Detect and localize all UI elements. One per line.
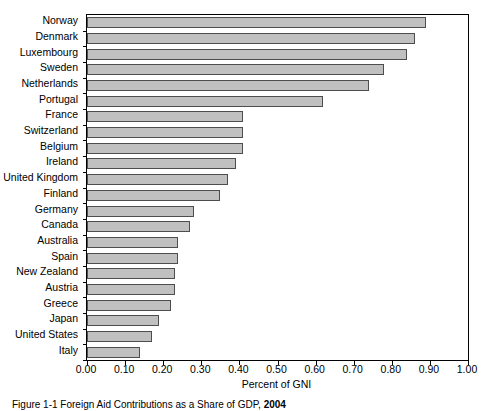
bar-australia	[87, 237, 178, 248]
bar-rect	[87, 33, 415, 44]
bar-rect	[87, 190, 220, 201]
y-axis-tick	[83, 313, 87, 314]
bar-rect	[87, 237, 178, 248]
bar-rect	[87, 127, 243, 138]
bar-denmark	[87, 33, 415, 44]
category-label-united-states: United States	[15, 329, 78, 340]
y-axis-tick	[83, 31, 87, 32]
bar-rect	[87, 347, 140, 358]
bar-italy	[87, 347, 140, 358]
bar-rect	[87, 143, 243, 154]
y-axis-tick	[83, 344, 87, 345]
category-label-belgium: Belgium	[40, 141, 78, 152]
x-axis-title: Percent of GNI	[86, 378, 467, 390]
bars-group	[87, 15, 468, 360]
bar-austria	[87, 284, 175, 295]
y-axis-tick	[83, 282, 87, 283]
bar-united-states	[87, 331, 152, 342]
bar-rect	[87, 253, 178, 264]
y-axis-tick	[83, 329, 87, 330]
y-axis-tick	[83, 188, 87, 189]
bar-new-zealand	[87, 268, 175, 279]
category-label-netherlands: Netherlands	[21, 78, 78, 89]
bar-netherlands	[87, 80, 369, 91]
caption-year: 2004	[264, 399, 286, 410]
bar-ireland	[87, 158, 236, 169]
category-label-finland: Finland	[44, 188, 78, 199]
bar-sweden	[87, 64, 384, 75]
category-label-denmark: Denmark	[35, 31, 78, 42]
category-label-united-kingdom: United Kingdom	[3, 172, 78, 183]
bar-rect	[87, 96, 323, 107]
bar-rect	[87, 49, 407, 60]
bar-belgium	[87, 143, 243, 154]
bar-rect	[87, 268, 175, 279]
y-axis-tick	[83, 172, 87, 173]
bar-rect	[87, 284, 175, 295]
category-label-australia: Australia	[37, 235, 78, 246]
y-axis-tick	[83, 219, 87, 220]
category-label-ireland: Ireland	[46, 156, 78, 167]
y-axis-tick	[83, 235, 87, 236]
category-axis-labels: NorwayDenmarkLuxembourgSwedenNetherlands…	[0, 14, 82, 359]
category-label-france: France	[45, 109, 78, 120]
y-axis-tick	[83, 78, 87, 79]
bar-rect	[87, 315, 159, 326]
bar-norway	[87, 17, 426, 28]
y-axis-tick	[83, 62, 87, 63]
category-label-luxembourg: Luxembourg	[20, 47, 78, 58]
y-axis-tick	[83, 109, 87, 110]
bar-greece	[87, 300, 171, 311]
category-label-new-zealand: New Zealand	[16, 266, 78, 277]
category-label-italy: Italy	[59, 345, 78, 356]
bar-japan	[87, 315, 159, 326]
category-label-greece: Greece	[44, 298, 78, 309]
bar-canada	[87, 221, 190, 232]
y-axis-tick	[83, 125, 87, 126]
bar-rect	[87, 331, 152, 342]
bar-rect	[87, 17, 426, 28]
figure-caption: Figure 1-1 Foreign Aid Contributions as …	[12, 399, 472, 411]
y-axis-tick	[83, 297, 87, 298]
bar-switzerland	[87, 127, 243, 138]
category-label-canada: Canada	[41, 219, 78, 230]
y-axis-tick	[83, 156, 87, 157]
bar-rect	[87, 111, 243, 122]
bar-rect	[87, 158, 236, 169]
plot-area	[86, 14, 469, 361]
bar-rect	[87, 80, 369, 91]
bar-united-kingdom	[87, 174, 228, 185]
category-label-germany: Germany	[35, 204, 78, 215]
bar-portugal	[87, 96, 323, 107]
bar-rect	[87, 206, 194, 217]
bar-luxembourg	[87, 49, 407, 60]
bar-rect	[87, 300, 171, 311]
bar-rect	[87, 64, 384, 75]
bar-rect	[87, 221, 190, 232]
category-label-sweden: Sweden	[40, 62, 78, 73]
category-label-japan: Japan	[49, 313, 78, 324]
y-axis-tick	[83, 140, 87, 141]
y-axis-tick	[83, 266, 87, 267]
bar-rect	[87, 174, 228, 185]
bar-germany	[87, 206, 194, 217]
category-label-spain: Spain	[51, 251, 78, 262]
x-axis-tick-label: 1.00	[444, 363, 488, 375]
bar-spain	[87, 253, 178, 264]
bar-finland	[87, 190, 220, 201]
category-label-austria: Austria	[45, 282, 78, 293]
y-axis-tick	[83, 93, 87, 94]
bar-france	[87, 111, 243, 122]
y-axis-tick	[83, 46, 87, 47]
category-label-norway: Norway	[42, 15, 78, 26]
category-label-portugal: Portugal	[39, 94, 78, 105]
category-label-switzerland: Switzerland	[24, 125, 78, 136]
y-axis-tick	[83, 203, 87, 204]
y-axis-tick	[83, 250, 87, 251]
